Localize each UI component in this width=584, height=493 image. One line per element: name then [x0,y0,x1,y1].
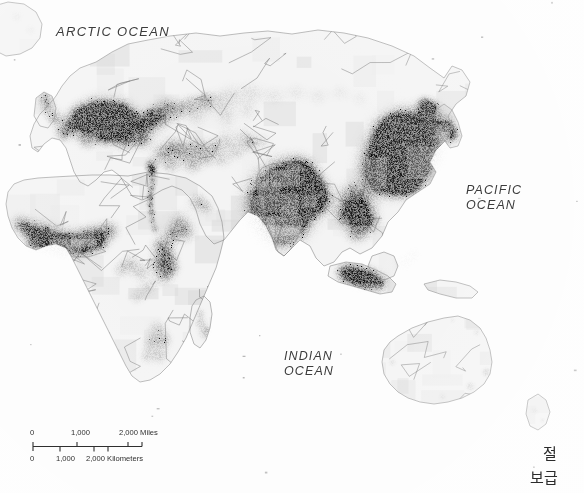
korean-annotation-line2: 보급 [530,466,558,487]
scale-tick-km-0: 0 [30,454,34,463]
scale-tick-km-1: 1,000 [56,454,75,463]
map-raster-layer [0,0,584,493]
scale-bar-graphic [32,440,172,454]
scale-tick-miles-1: 1,000 [71,428,90,437]
scale-bar: 0 1,000 2,000 Miles 0 1,000 2,000 Kilome… [30,428,190,468]
scale-tick-km-2: 2,000 Kilometers [86,454,143,463]
korean-annotation-line1: 절 [543,442,557,463]
scale-bar-miles-labels: 0 1,000 2,000 Miles [30,428,200,440]
scale-tick-miles-2: 2,000 Miles [119,428,158,437]
world-population-density-map: ARCTIC OCEAN PACIFICOCEAN INDIANOCEAN 0 … [0,0,584,493]
scale-tick-miles-0: 0 [30,428,34,437]
scale-bar-kilometers-labels: 0 1,000 2,000 Kilometers [30,454,200,466]
